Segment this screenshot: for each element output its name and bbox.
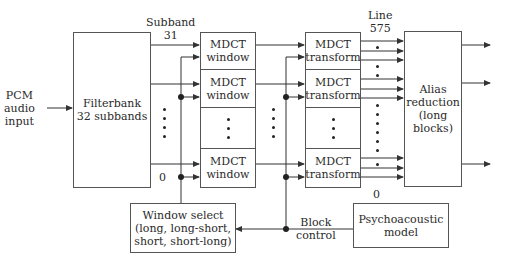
mdct-transform-block: MDCT transform (305, 32, 361, 70)
mdct-window-block: MDCT window (200, 32, 256, 70)
subband-top-label: Subband 31 (146, 16, 195, 42)
psychoacoustic-model-block: Psychoacoustic model (353, 203, 449, 248)
mdct-transform-block: MDCT transform (305, 148, 361, 188)
psychoacoustic-model-label: Psychoacoustic model (358, 213, 443, 239)
alias-reduction-block: Alias reduction (long blocks) (404, 31, 462, 187)
mdct-window-block: MDCT window (200, 69, 256, 108)
window-select-label: Window select (long, long-short, short, … (134, 209, 231, 248)
mdct-window-block: MDCT window (200, 148, 256, 188)
filterbank-block: Filterbank 32 subbands (73, 32, 151, 188)
line-bottom-label: 0 (373, 188, 380, 201)
mdct-window-label: MDCT window (206, 76, 249, 102)
line-ellipsis-4 (376, 160, 379, 169)
mdct-window-label: MDCT window (206, 155, 249, 181)
line-ellipsis-1 (376, 43, 379, 52)
alias-reduction-label: Alias reduction (long blocks) (406, 83, 460, 135)
mdct-transform-block: MDCT transform (305, 69, 361, 108)
window-transform-ellipsis (272, 105, 275, 141)
mdct-transform-label: MDCT transform (305, 76, 360, 102)
filterbank-label: Filterbank 32 subbands (77, 97, 148, 123)
line-ellipsis-3 (376, 101, 379, 155)
line-ellipsis-2 (376, 62, 379, 80)
pcm-input-label: PCM audio input (4, 89, 35, 128)
mdct-transform-ellipsis-block (305, 107, 361, 149)
subband-ellipsis (163, 105, 166, 141)
line-top-label: Line 575 (368, 9, 392, 35)
mdct-transform-label: MDCT transform (305, 38, 360, 64)
subband-bottom-label: 0 (159, 171, 166, 184)
mdct-window-ellipsis-block (200, 107, 256, 149)
mdct-transform-label: MDCT transform (305, 155, 360, 181)
mdct-window-label: MDCT window (206, 38, 249, 64)
window-select-block: Window select (long, long-short, short, … (130, 203, 236, 253)
block-control-label: Block control (296, 216, 336, 242)
